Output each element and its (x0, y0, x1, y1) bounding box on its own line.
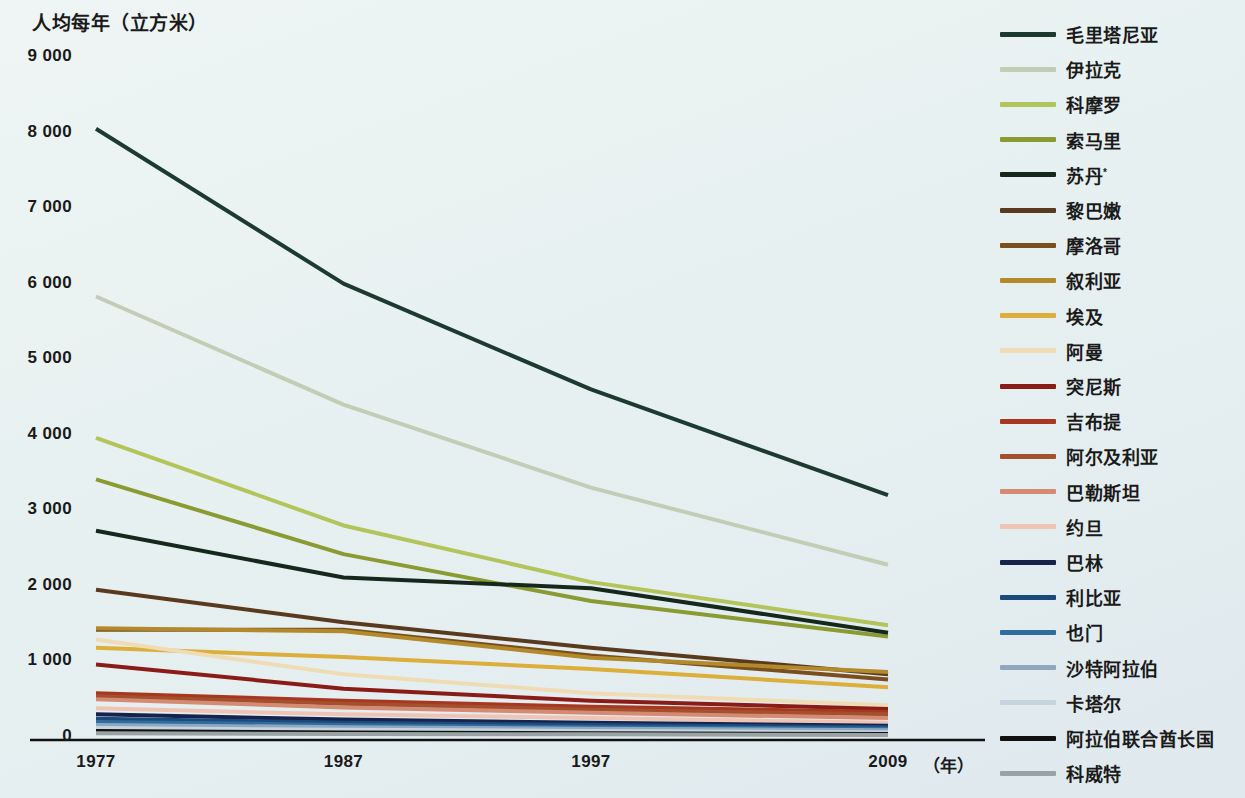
legend-color-swatch-icon (1000, 489, 1056, 494)
legend-item-label: 科威特 (1066, 760, 1122, 786)
y-axis-tick-label: 0 (0, 726, 72, 746)
legend-color-swatch-icon (1000, 137, 1056, 142)
legend-color-swatch-icon (1000, 313, 1056, 318)
legend-item[interactable]: 科威特 (1000, 762, 1122, 784)
legend-item[interactable]: 约旦 (1000, 516, 1103, 538)
legend-item[interactable]: 阿拉伯联合酋长国 (1000, 727, 1214, 749)
legend-color-swatch-icon (1000, 524, 1056, 529)
y-axis-tick-label: 8 000 (0, 122, 72, 142)
y-axis-tick-label: 6 000 (0, 273, 72, 293)
chart-line-科威特 (96, 733, 888, 735)
legend-item-label: 黎巴嫩 (1066, 197, 1122, 223)
x-axis-tick-label: 1987 (294, 752, 394, 772)
legend-color-swatch-icon (1000, 348, 1056, 353)
chart-line-伊拉克 (96, 297, 888, 565)
legend-item[interactable]: 毛里塔尼亚 (1000, 23, 1159, 45)
legend-item-label: 阿拉伯联合酋长国 (1066, 725, 1214, 751)
legend-item-label: 阿尔及利亚 (1066, 443, 1159, 469)
legend-item-label: 巴勒斯坦 (1066, 479, 1140, 505)
y-axis-tick-label: 9 000 (0, 46, 72, 66)
legend-item-label: 也门 (1066, 619, 1103, 645)
x-axis-tick-label: 1977 (46, 752, 146, 772)
legend-color-swatch-icon (1000, 243, 1056, 248)
legend-item-label: 突尼斯 (1066, 373, 1122, 399)
legend-color-swatch-icon (1000, 771, 1056, 776)
legend-item[interactable]: 沙特阿拉伯 (1000, 657, 1159, 679)
legend-item-label: 苏丹* (1066, 162, 1107, 188)
legend-item[interactable]: 吉布提 (1000, 410, 1122, 432)
legend-item-label: 索马里 (1066, 127, 1122, 153)
legend-item-label: 叙利亚 (1066, 267, 1122, 293)
legend-item[interactable]: 突尼斯 (1000, 375, 1122, 397)
legend-item[interactable]: 苏丹* (1000, 164, 1107, 186)
legend-item[interactable]: 巴林 (1000, 551, 1103, 573)
legend-item[interactable]: 黎巴嫩 (1000, 199, 1122, 221)
legend-item-label: 科摩罗 (1066, 91, 1122, 117)
legend-item-label: 毛里塔尼亚 (1066, 21, 1159, 47)
chart-line-毛里塔尼亚 (96, 129, 888, 495)
legend-item[interactable]: 叙利亚 (1000, 269, 1122, 291)
legend-item-label: 阿曼 (1066, 338, 1103, 364)
x-axis-unit-label: （年） (923, 752, 974, 777)
legend-item-label: 卡塔尔 (1066, 690, 1122, 716)
chart-page: 人均每年（立方米） 9 0008 0007 0006 0005 0004 000… (0, 0, 1245, 798)
legend-item-label: 约旦 (1066, 514, 1103, 540)
legend-item-label: 利比亚 (1066, 584, 1122, 610)
legend-color-swatch-icon (1000, 419, 1056, 424)
legend-item[interactable]: 阿曼 (1000, 340, 1103, 362)
legend-color-swatch-icon (1000, 172, 1056, 177)
legend-item[interactable]: 卡塔尔 (1000, 692, 1122, 714)
legend-item[interactable]: 伊拉克 (1000, 58, 1122, 80)
legend-item-label: 沙特阿拉伯 (1066, 655, 1159, 681)
legend-item[interactable]: 巴勒斯坦 (1000, 481, 1140, 503)
legend-color-swatch-icon (1000, 278, 1056, 283)
chart-legend: 毛里塔尼亚伊拉克科摩罗索马里苏丹*黎巴嫩摩洛哥叙利亚埃及阿曼突尼斯吉布提阿尔及利… (1000, 0, 1245, 798)
legend-item[interactable]: 也门 (1000, 621, 1103, 643)
legend-color-swatch-icon (1000, 208, 1056, 213)
chart-line-黎巴嫩 (96, 590, 888, 675)
legend-color-swatch-icon (1000, 102, 1056, 107)
legend-item[interactable]: 利比亚 (1000, 586, 1122, 608)
y-axis-tick-label: 1 000 (0, 650, 72, 670)
chart-line-科摩罗 (96, 438, 888, 625)
legend-item[interactable]: 摩洛哥 (1000, 234, 1122, 256)
x-axis-tick-label: 1997 (541, 752, 641, 772)
legend-item[interactable]: 索马里 (1000, 129, 1122, 151)
line-chart-svg (0, 0, 990, 798)
y-axis-tick-label: 4 000 (0, 424, 72, 444)
y-axis-tick-label: 3 000 (0, 499, 72, 519)
y-axis-tick-label: 2 000 (0, 575, 72, 595)
legend-item-label: 埃及 (1066, 303, 1103, 329)
legend-color-swatch-icon (1000, 32, 1056, 37)
legend-color-swatch-icon (1000, 630, 1056, 635)
legend-item-label: 巴林 (1066, 549, 1103, 575)
legend-color-swatch-icon (1000, 595, 1056, 600)
legend-item-label: 摩洛哥 (1066, 232, 1122, 258)
legend-color-swatch-icon (1000, 454, 1056, 459)
legend-color-swatch-icon (1000, 560, 1056, 565)
legend-color-swatch-icon (1000, 384, 1056, 389)
legend-item[interactable]: 阿尔及利亚 (1000, 445, 1159, 467)
legend-item[interactable]: 埃及 (1000, 305, 1103, 327)
legend-color-swatch-icon (1000, 67, 1056, 72)
legend-item-label: 吉布提 (1066, 408, 1122, 434)
y-axis-tick-label: 7 000 (0, 197, 72, 217)
legend-color-swatch-icon (1000, 700, 1056, 705)
legend-item[interactable]: 科摩罗 (1000, 93, 1122, 115)
legend-color-swatch-icon (1000, 665, 1056, 670)
legend-color-swatch-icon (1000, 736, 1056, 741)
chart-plot-area: 人均每年（立方米） 9 0008 0007 0006 0005 0004 000… (0, 0, 990, 798)
y-axis-tick-label: 5 000 (0, 348, 72, 368)
legend-item-label: 伊拉克 (1066, 56, 1122, 82)
